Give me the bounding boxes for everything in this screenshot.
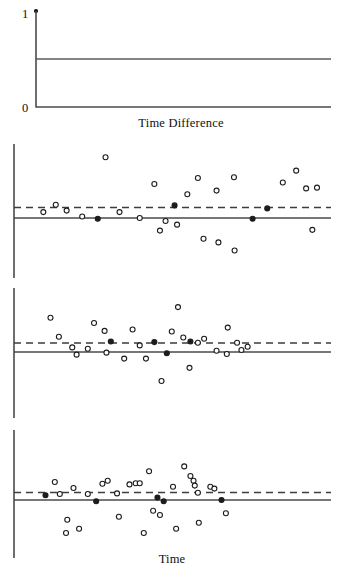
- data-point: [157, 513, 162, 518]
- data-point: [77, 526, 82, 531]
- data-point: [53, 202, 58, 207]
- data-point: [102, 328, 107, 333]
- data-point: [41, 210, 46, 215]
- data-point: [195, 176, 200, 181]
- data-point: [143, 356, 148, 361]
- data-point: [250, 216, 255, 221]
- time-difference-step-panel: 1 0: [22, 7, 331, 115]
- data-point: [219, 498, 224, 503]
- residual-panel-1: [14, 144, 331, 278]
- data-point: [224, 351, 229, 356]
- data-point: [65, 517, 70, 522]
- data-point: [239, 348, 244, 353]
- data-point: [157, 228, 162, 233]
- data-point: [85, 492, 90, 497]
- data-point: [152, 181, 157, 186]
- data-point: [315, 185, 320, 190]
- data-point: [104, 350, 109, 355]
- y-tick-label-one: 1: [22, 7, 28, 21]
- data-point: [294, 168, 299, 173]
- data-point: [105, 478, 110, 483]
- time-axis-label: Time: [159, 552, 186, 566]
- data-point: [92, 320, 97, 325]
- data-point: [70, 345, 75, 350]
- data-point: [115, 491, 120, 496]
- data-point: [265, 206, 270, 211]
- data-point: [188, 474, 193, 479]
- data-point: [174, 526, 179, 531]
- residual-panel-2: [14, 288, 331, 418]
- data-point: [100, 481, 105, 486]
- data-point: [151, 508, 156, 513]
- data-point: [169, 329, 174, 334]
- data-point: [196, 520, 201, 525]
- data-point: [172, 203, 177, 208]
- time-difference-axis-label: Time Difference: [138, 116, 224, 130]
- data-point: [192, 483, 197, 488]
- data-point: [235, 340, 240, 345]
- data-point: [171, 484, 176, 489]
- panel-1-point-group: [41, 155, 320, 253]
- data-point: [232, 248, 237, 253]
- data-point: [95, 216, 100, 221]
- data-point: [56, 334, 61, 339]
- data-point: [164, 351, 169, 356]
- data-point: [122, 356, 127, 361]
- data-point: [48, 315, 53, 320]
- data-point: [64, 531, 69, 536]
- data-point: [137, 216, 142, 221]
- data-point: [185, 192, 190, 197]
- data-point: [127, 482, 132, 487]
- data-point: [141, 531, 146, 536]
- data-point: [280, 180, 285, 185]
- data-point: [175, 222, 180, 227]
- data-point: [57, 492, 62, 497]
- data-point: [216, 240, 221, 245]
- data-point: [152, 340, 157, 345]
- data-point: [191, 478, 196, 483]
- data-point: [202, 336, 207, 341]
- data-point: [195, 340, 200, 345]
- data-point: [201, 236, 206, 241]
- data-point: [245, 344, 250, 349]
- data-point: [214, 188, 219, 193]
- data-point: [159, 379, 164, 384]
- data-point: [187, 365, 192, 370]
- data-point: [310, 227, 315, 232]
- data-point: [74, 352, 79, 357]
- data-point: [175, 305, 180, 310]
- data-point: [103, 155, 108, 160]
- data-point: [155, 495, 160, 500]
- data-point: [147, 469, 152, 474]
- data-point: [304, 186, 309, 191]
- data-point: [212, 486, 217, 491]
- figure-root: 1 0 Time Difference: [0, 0, 341, 584]
- data-point: [52, 480, 57, 485]
- data-point: [130, 327, 135, 332]
- data-point: [71, 486, 76, 491]
- data-point: [108, 339, 113, 344]
- y-tick-label-zero: 0: [22, 101, 28, 115]
- data-point: [195, 490, 200, 495]
- data-point: [182, 464, 187, 469]
- data-point: [116, 514, 121, 519]
- data-point: [214, 348, 219, 353]
- data-point: [85, 346, 90, 351]
- data-point: [117, 210, 122, 215]
- figure-canvas: 1 0 Time Difference: [0, 0, 341, 584]
- residual-panel-3: [14, 430, 331, 558]
- data-point: [64, 208, 69, 213]
- data-point: [43, 493, 48, 498]
- data-point: [137, 481, 142, 486]
- data-point: [94, 499, 99, 504]
- data-point: [80, 214, 85, 219]
- data-point: [181, 335, 186, 340]
- data-point: [188, 339, 193, 344]
- panel-2-point-group: [48, 305, 250, 384]
- data-point: [231, 175, 236, 180]
- data-point: [161, 499, 166, 504]
- data-point: [225, 325, 230, 330]
- data-point: [163, 218, 168, 223]
- data-point: [137, 343, 142, 348]
- data-point: [223, 511, 228, 516]
